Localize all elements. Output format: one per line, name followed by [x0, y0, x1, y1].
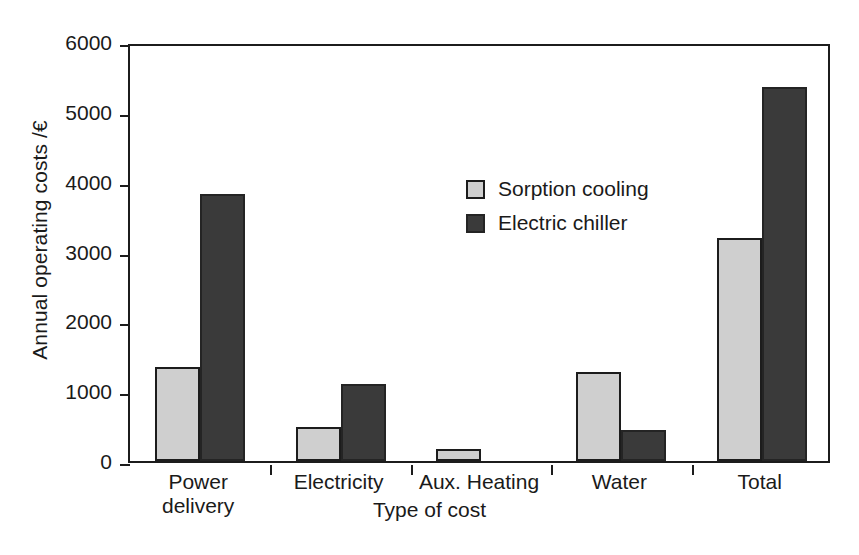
bar — [200, 194, 245, 461]
legend-item: Sorption cooling — [466, 174, 649, 204]
x-category-label: Total — [670, 470, 850, 494]
y-tick-label: 5000 — [2, 101, 112, 125]
y-tick-mark — [120, 115, 130, 117]
legend-swatch-sorption-cooling — [466, 180, 485, 199]
legend-label-electric-chiller: Electric chiller — [498, 211, 628, 235]
x-category-label-line1: Total — [738, 470, 782, 493]
legend: Sorption cooling Electric chiller — [466, 174, 649, 242]
bar — [621, 430, 666, 461]
x-category-label-line1: Power — [168, 470, 228, 493]
legend-label-sorption-cooling: Sorption cooling — [498, 177, 649, 201]
bar-chart-figure: Annual operating costs /€ 01000200030004… — [0, 0, 859, 555]
plot-area: 0100020003000400050006000 Sorption cooli… — [128, 44, 830, 463]
bar — [296, 427, 341, 461]
legend-item: Electric chiller — [466, 208, 649, 238]
bar — [717, 238, 762, 461]
y-tick-mark — [120, 394, 130, 396]
y-tick-mark — [120, 45, 130, 47]
bar — [576, 372, 621, 461]
bar — [436, 449, 481, 461]
y-tick-mark — [120, 185, 130, 187]
x-category-label-line1: Aux. Heating — [419, 470, 539, 493]
y-tick-label: 4000 — [2, 171, 112, 195]
x-axis-title: Type of cost — [0, 498, 859, 522]
bar — [341, 384, 386, 461]
y-tick-mark — [120, 464, 130, 466]
y-tick-label: 6000 — [2, 31, 112, 55]
y-tick-mark — [120, 255, 130, 257]
y-tick-label: 0 — [2, 450, 112, 474]
y-tick-label: 3000 — [2, 241, 112, 265]
y-tick-mark — [120, 324, 130, 326]
y-tick-label: 2000 — [2, 310, 112, 334]
bar — [762, 87, 807, 461]
x-category-label-line1: Electricity — [294, 470, 384, 493]
y-tick-label: 1000 — [2, 380, 112, 404]
bar — [155, 367, 200, 461]
x-category-label-line1: Water — [592, 470, 647, 493]
legend-swatch-electric-chiller — [466, 214, 485, 233]
